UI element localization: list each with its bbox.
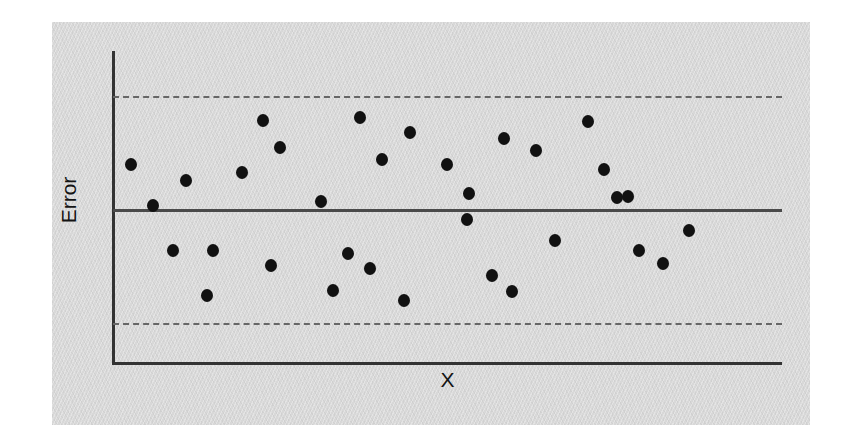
point-2 xyxy=(147,199,159,212)
point-9 xyxy=(265,259,277,272)
upper-control-limit-line xyxy=(113,96,782,98)
scatter-plot: Error X xyxy=(0,0,850,448)
point-14 xyxy=(354,111,366,124)
y-axis-label: Error xyxy=(24,180,114,220)
point-11 xyxy=(315,195,327,208)
lower-control-limit-line xyxy=(113,323,782,325)
point-3 xyxy=(180,174,192,187)
point-16 xyxy=(364,262,376,275)
figure-container: Error X xyxy=(0,0,850,448)
point-8 xyxy=(201,289,213,302)
point-17 xyxy=(404,126,416,139)
point-23 xyxy=(486,269,498,282)
point-19 xyxy=(441,158,453,171)
point-22 xyxy=(498,132,510,145)
point-33 xyxy=(611,191,623,204)
point-30 xyxy=(633,244,645,257)
x-axis-line xyxy=(112,362,782,365)
point-29 xyxy=(622,190,634,203)
zero-reference-line xyxy=(113,209,782,212)
point-1 xyxy=(125,158,137,171)
point-10 xyxy=(274,141,286,154)
point-27 xyxy=(582,115,594,128)
point-25 xyxy=(506,285,518,298)
x-axis-label: X xyxy=(113,368,782,392)
point-32 xyxy=(683,224,695,237)
point-13 xyxy=(327,284,339,297)
point-20 xyxy=(463,187,475,200)
point-4 xyxy=(167,244,179,257)
point-6 xyxy=(236,166,248,179)
point-24 xyxy=(530,144,542,157)
point-15 xyxy=(376,153,388,166)
point-26 xyxy=(549,234,561,247)
point-12 xyxy=(342,247,354,260)
point-31 xyxy=(657,257,669,270)
point-7 xyxy=(257,114,269,127)
point-18 xyxy=(398,294,410,307)
point-5 xyxy=(207,244,219,257)
point-28 xyxy=(598,163,610,176)
point-21 xyxy=(461,213,473,226)
